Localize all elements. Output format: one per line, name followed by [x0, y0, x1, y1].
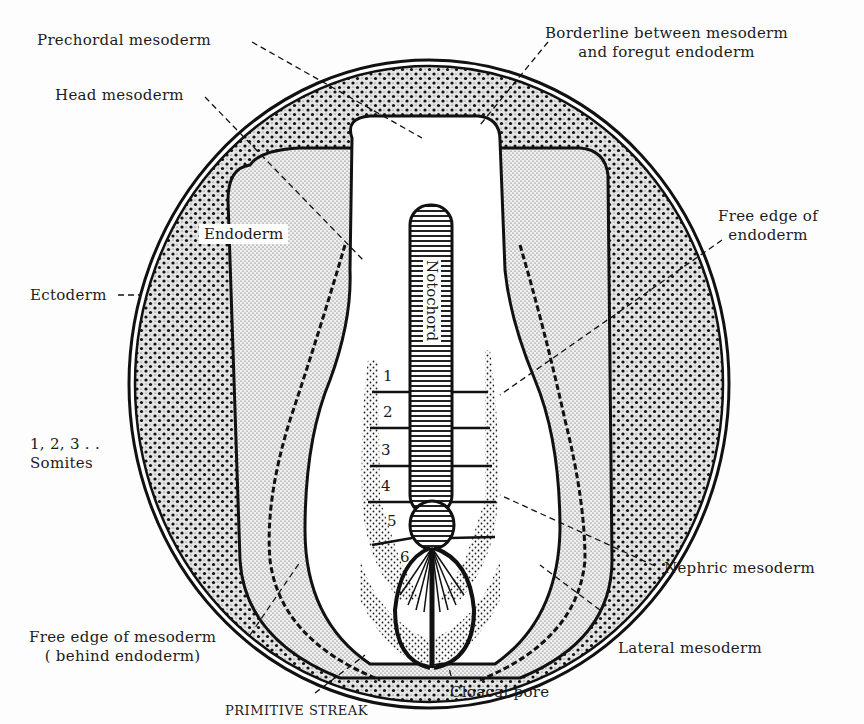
label-ectoderm: Ectoderm — [30, 286, 107, 305]
label-cloacal-pore: Cloacal pore — [450, 683, 549, 702]
label-somites: 1, 2, 3 . . Somites — [30, 435, 100, 473]
notochord — [410, 205, 452, 515]
label-free-edge-endoderm-line1: Free edge of — [718, 207, 818, 226]
embryo-diagram — [0, 0, 864, 724]
somite-4: 4 — [381, 477, 391, 495]
label-somites-line1: 1, 2, 3 . . — [30, 435, 100, 454]
somite-6: 6 — [400, 548, 410, 566]
label-prechordal-mesoderm: Prechordal mesoderm — [37, 31, 211, 50]
label-somites-line2: Somites — [30, 454, 100, 473]
label-notochord: Notochord — [423, 258, 441, 343]
primitive-node — [410, 501, 454, 549]
somite-1: 1 — [383, 367, 393, 385]
label-free-edge-endoderm: Free edge of endoderm — [718, 207, 818, 245]
label-free-edge-mesoderm-line1: Free edge of mesoderm — [29, 628, 216, 647]
label-endoderm: Endoderm — [199, 224, 288, 244]
label-head-mesoderm: Head mesoderm — [55, 86, 184, 105]
label-free-edge-endoderm-line2: endoderm — [718, 226, 818, 245]
label-primitive-streak: PRIMITIVE STREAK — [225, 701, 368, 720]
label-free-edge-mesoderm: Free edge of mesoderm ( behind endoderm) — [29, 628, 216, 666]
label-free-edge-mesoderm-line2: ( behind endoderm) — [29, 647, 216, 666]
label-borderline-line1: Borderline between mesoderm — [545, 24, 788, 43]
label-borderline-line2: and foregut endoderm — [545, 43, 788, 62]
label-lateral-mesoderm: Lateral mesoderm — [618, 639, 762, 658]
somite-3: 3 — [381, 441, 391, 459]
somite-5: 5 — [387, 512, 397, 530]
somite-2: 2 — [383, 403, 393, 421]
label-nephric-mesoderm: Nephric mesoderm — [664, 559, 815, 578]
label-borderline: Borderline between mesoderm and foregut … — [545, 24, 788, 62]
